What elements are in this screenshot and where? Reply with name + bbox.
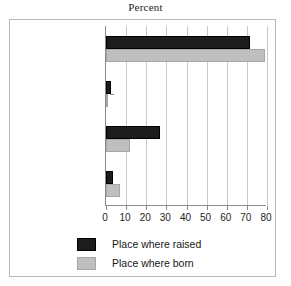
tick-70 [247,206,248,210]
x-tick-label-10: 10 [114,212,136,223]
chart-figure: Percent 01020304050607080 Place where ra… [0,0,291,286]
tick-40 [187,206,188,210]
x-tick-label-0: 0 [94,212,116,223]
bar-raised-2 [106,126,160,139]
bar-born-1 [106,94,108,107]
tick-60 [227,206,228,210]
bar-born-0 [106,49,265,62]
legend-label-1: Place where born [112,257,194,269]
x-tick-label-60: 60 [215,212,237,223]
x-tick-label-70: 70 [235,212,257,223]
bar-born-3 [106,184,120,197]
bar-born-2 [106,139,130,152]
gray-swatch-icon [77,257,96,270]
black-swatch-icon [77,238,96,251]
gridline-80 [267,26,268,205]
tick-30 [166,206,167,210]
tick-80 [267,206,268,210]
x-tick-label-50: 50 [195,212,217,223]
x-tick-label-20: 20 [134,212,156,223]
tick-0 [106,206,107,210]
tick-10 [126,206,127,210]
legend-label-0: Place where raised [112,238,201,250]
chart-legend: Place where raisedPlace where born [77,236,201,274]
x-tick-label-30: 30 [154,212,176,223]
category-axis-labels [9,26,101,206]
legend-item-1[interactable]: Place where born [77,255,201,271]
chart-title: Percent [0,1,291,13]
bar-raised-0 [106,36,250,49]
legend-item-0[interactable]: Place where raised [77,236,201,252]
x-tick-label-80: 80 [255,212,277,223]
x-tick-label-40: 40 [175,212,197,223]
plot-area [105,26,266,206]
tick-50 [207,206,208,210]
bar-raised-1 [106,81,111,94]
tick-20 [146,206,147,210]
bar-raised-3 [106,171,113,184]
